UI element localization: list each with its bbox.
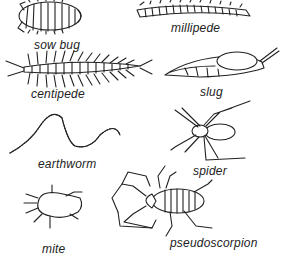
label-millipede: millipede <box>171 22 220 35</box>
label-slug: slug <box>200 86 223 99</box>
label-pseudoscorpion: pseudoscorpion <box>170 237 258 250</box>
centipede-drawing <box>6 51 152 87</box>
label-mite: mite <box>42 243 65 256</box>
earthworm-drawing <box>10 114 120 153</box>
slug-drawing <box>165 48 279 77</box>
label-sow-bug: sow bug <box>34 39 80 52</box>
sow-bug-drawing <box>18 0 81 34</box>
soil-organisms-figure: sow bug millipede centipede slug earthwo… <box>0 0 286 261</box>
spider-drawing <box>171 101 250 160</box>
label-earthworm: earthworm <box>38 158 96 171</box>
label-centipede: centipede <box>31 88 85 101</box>
label-spider: spider <box>193 165 227 178</box>
mite-drawing <box>24 185 82 228</box>
millipede-drawing <box>137 0 250 17</box>
